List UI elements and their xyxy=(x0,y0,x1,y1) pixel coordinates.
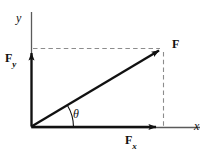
component-x-label-subscript: x xyxy=(132,141,137,151)
force-vector-diagram: y x F Fy Fx θ xyxy=(0,0,214,160)
component-y-label-subscript: y xyxy=(12,59,16,69)
angle-theta-label: θ xyxy=(73,108,79,120)
component-y-label: Fy xyxy=(5,52,16,67)
y-axis-label: y xyxy=(16,12,21,24)
resultant-vector-F xyxy=(32,51,160,127)
diagram-canvas xyxy=(0,0,214,160)
component-x-label: Fx xyxy=(125,134,137,149)
resultant-vector-label: F xyxy=(172,38,179,50)
x-axis-label: x xyxy=(194,120,199,132)
